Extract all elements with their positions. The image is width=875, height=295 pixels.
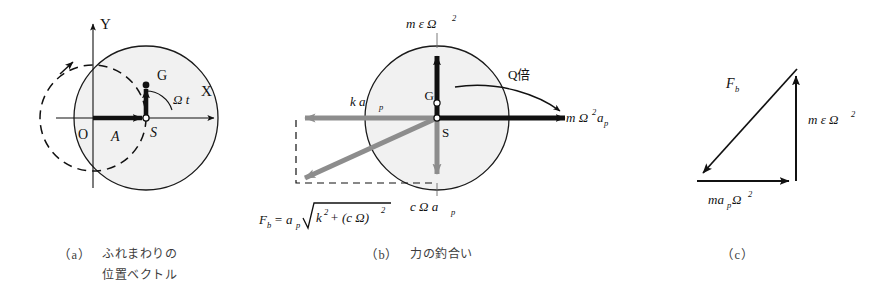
figure-container: X Y O A S G Ω t m ε Ω 2 c Ω a p k a p m … <box>0 0 875 295</box>
bottom-force-text: c Ω a <box>410 199 439 214</box>
left-force-text: k a <box>350 94 366 109</box>
point-S-marker-a <box>143 115 149 121</box>
label-right-force-b: m Ω 2 a p <box>566 107 608 128</box>
formula-plus-comega: + (c Ω) <box>330 210 369 225</box>
label-top-force-b: m ε Ω 2 <box>406 13 457 31</box>
caption-a-line2: 位置ベクトル <box>102 265 177 282</box>
label-bottom-force-b: c Ω a p <box>410 199 455 217</box>
angle-label-omega-t: Ω t <box>173 92 190 107</box>
left-force-sub: p <box>378 102 383 112</box>
vertical-force-text: m ε Ω <box>808 112 838 127</box>
right-force-text: m Ω <box>566 110 588 125</box>
caption-b-text: 力の釣合い <box>410 244 473 261</box>
caption-a-label: （a） <box>58 244 91 263</box>
label-horizontal-c: ma p Ω 2 <box>708 189 753 210</box>
center-label-S-a: S <box>150 125 157 140</box>
amplitude-label-A: A <box>110 129 120 144</box>
top-force-exponent: 2 <box>452 13 457 23</box>
label-hypotenuse-c: F b <box>725 76 739 94</box>
hypotenuse-Fb-sub: b <box>735 84 739 94</box>
formula-Fb-sub: b <box>267 220 271 230</box>
point-G-marker-b <box>434 100 440 106</box>
mass-label-G-a: G <box>157 68 167 83</box>
horizontal-force-sub: p <box>726 200 731 210</box>
mass-label-G-b: G <box>425 88 434 103</box>
resultant-formula-b: F b = a p k 2 + (c Ω) 2 <box>258 203 391 230</box>
panel-b-graphic <box>296 33 565 196</box>
formula-k: k <box>316 210 322 225</box>
panel-c-graphic <box>697 69 797 181</box>
axis-x-label: X <box>201 83 212 99</box>
orbit-direction-arrow <box>60 62 73 74</box>
horizontal-force-tail: Ω <box>732 192 741 207</box>
axis-y-label: Y <box>100 16 111 32</box>
origin-label: O <box>78 127 88 142</box>
hypotenuse-Fb: F <box>725 76 735 91</box>
point-G-marker-a <box>143 82 150 89</box>
right-force-tail-sub: p <box>603 118 608 128</box>
formula-comega-exp: 2 <box>381 205 386 215</box>
vertical-force-exp: 2 <box>851 109 856 119</box>
caption-b-label: （b） <box>365 244 399 263</box>
horizontal-force-text: ma <box>708 192 724 207</box>
caption-a-line1: ふれまわりの <box>102 244 177 261</box>
top-force-text: m ε Ω <box>406 16 436 31</box>
triangle-hypotenuse-Fb-arrow <box>703 69 797 173</box>
label-vertical-c: m ε Ω 2 <box>808 109 856 127</box>
horizontal-force-exp: 2 <box>748 189 753 199</box>
formula-k-exp: 2 <box>324 207 329 217</box>
formula-ap-sub: p <box>295 220 300 230</box>
bottom-force-sub: p <box>450 207 455 217</box>
q-factor-label: Q倍 <box>508 67 530 82</box>
panel-a-graphic <box>40 24 218 190</box>
right-force-tail: a <box>597 110 604 125</box>
caption-c-label: （c） <box>721 244 754 263</box>
point-S-marker-b <box>434 115 440 121</box>
formula-eq-ap: = a <box>274 212 293 227</box>
center-label-S-b: S <box>442 125 449 140</box>
